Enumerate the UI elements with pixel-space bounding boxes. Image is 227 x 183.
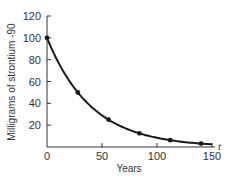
data-point [137,131,142,136]
y-tick-label: 120 [23,10,41,22]
data-points [45,35,204,146]
data-point [75,90,80,95]
decay-chart: 20406080100120050100150 Years Milligrams… [0,0,227,183]
x-axis-variable-t: t [218,140,222,152]
tick-labels: 20406080100120050100150 [23,10,222,162]
decay-curve-path [47,38,212,145]
y-tick-label: 20 [29,119,41,131]
decay-curve [47,38,212,145]
data-point [45,35,50,40]
x-axis-label: Years [116,163,141,174]
x-tick-label: 0 [44,150,50,162]
y-tick-label: 100 [23,32,41,44]
data-point [199,141,204,146]
x-tick-label: 50 [96,150,108,162]
y-tick-label: 80 [29,54,41,66]
data-point [168,138,173,143]
data-point [106,117,111,122]
y-axis-label: Milligrams of strontium -90 [6,23,17,141]
x-tick-label: 100 [148,150,166,162]
y-tick-label: 60 [29,76,41,88]
axes [47,16,215,147]
y-tick-label: 40 [29,97,41,109]
